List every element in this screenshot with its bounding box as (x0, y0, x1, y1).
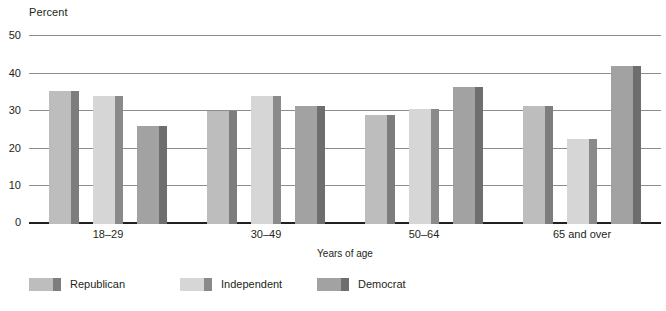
bar-side-face (475, 87, 483, 224)
x-axis-title: Years of age (29, 248, 661, 259)
bar-front-face (295, 106, 317, 224)
legend-swatch-side-face (204, 278, 212, 291)
bar-front-face (611, 66, 633, 224)
x-axis-tick-label: 30–49 (251, 228, 282, 240)
legend-label: Independent (221, 278, 282, 290)
legend-swatch-front-face (29, 278, 53, 291)
bar-group (365, 36, 483, 224)
bar (93, 96, 123, 224)
bar (295, 106, 325, 224)
y-axis-tick-label: 30 (9, 104, 21, 116)
bar-front-face (251, 96, 273, 224)
legend-swatch (29, 278, 61, 291)
legend-swatch-side-face (53, 278, 61, 291)
bar-front-face (93, 96, 115, 224)
bar-group (523, 36, 641, 224)
y-axis-tick-label: 20 (9, 142, 21, 154)
bar-front-face (453, 87, 475, 224)
bar (365, 115, 395, 224)
plot-area: 01020304050 (29, 36, 661, 224)
bar-side-face (317, 106, 325, 224)
legend-label: Republican (70, 278, 125, 290)
x-axis-tick-label: 18–29 (93, 228, 124, 240)
bar (207, 111, 237, 224)
bar-side-face (71, 91, 79, 224)
bar-chart: Percent 01020304050 18–2930–4950–6465 an… (0, 0, 666, 311)
y-axis-tick-label: 0 (15, 216, 21, 228)
bar (523, 106, 553, 224)
y-axis-tick-label: 50 (9, 29, 21, 41)
bar (611, 66, 641, 224)
x-axis-tick-label: 65 and over (553, 228, 611, 240)
bar-group (49, 36, 167, 224)
bar-front-face (409, 109, 431, 224)
bar-front-face (567, 139, 589, 224)
legend-swatch-front-face (180, 278, 204, 291)
y-axis-tick-label: 40 (9, 67, 21, 79)
x-axis-tick-labels: 18–2930–4950–6465 and over (29, 228, 661, 244)
y-axis-tick-label: 10 (9, 179, 21, 191)
bar-groups (29, 36, 661, 224)
bar-side-face (387, 115, 395, 224)
bar-side-face (545, 106, 553, 224)
legend-swatch (317, 278, 349, 291)
bar (137, 126, 167, 224)
bar-front-face (523, 106, 545, 224)
legend-swatch-side-face (341, 278, 349, 291)
bar-side-face (431, 109, 439, 224)
y-axis-title: Percent (29, 6, 68, 18)
legend-item[interactable]: Republican (29, 276, 125, 292)
bar-side-face (633, 66, 641, 224)
bar (409, 109, 439, 224)
bar-group (207, 36, 325, 224)
bar-front-face (49, 91, 71, 224)
bar (453, 87, 483, 224)
bar-front-face (207, 111, 229, 224)
x-axis-tick-label: 50–64 (409, 228, 440, 240)
bar-front-face (365, 115, 387, 224)
legend-label: Democrat (358, 278, 406, 290)
bar-side-face (589, 139, 597, 224)
bar (49, 91, 79, 224)
bar-front-face (137, 126, 159, 224)
bar (251, 96, 281, 224)
bar-side-face (273, 96, 281, 224)
legend-swatch (180, 278, 212, 291)
bar (567, 139, 597, 224)
legend-swatch-front-face (317, 278, 341, 291)
legend-item[interactable]: Democrat (317, 276, 406, 292)
bar-side-face (159, 126, 167, 224)
bar-side-face (229, 111, 237, 224)
chart-legend: RepublicanIndependentDemocrat (29, 276, 661, 296)
legend-item[interactable]: Independent (180, 276, 282, 292)
bar-side-face (115, 96, 123, 224)
